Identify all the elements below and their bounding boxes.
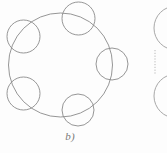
figure-panel-b: b) bbox=[0, 0, 167, 153]
figure-caption: b) bbox=[0, 130, 140, 143]
